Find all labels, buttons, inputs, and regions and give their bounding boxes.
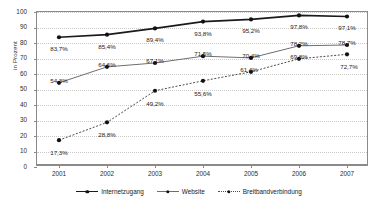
data-point <box>249 17 253 21</box>
data-label: 64,6% <box>98 62 116 68</box>
legend-label: Internetzugang <box>101 188 144 195</box>
x-tick-label: 2006 <box>279 170 319 177</box>
data-label: 95,2% <box>242 28 260 34</box>
data-point <box>201 20 205 24</box>
data-label: 70,4% <box>242 53 260 59</box>
chart-legend: InternetzugangWebsiteBreitbandverbindung <box>0 188 378 195</box>
data-label: 93,8% <box>194 31 212 37</box>
x-tick-label: 2004 <box>183 170 223 177</box>
data-label: 49,2% <box>146 101 164 107</box>
legend-swatch-icon <box>218 188 240 195</box>
data-label: 61,4% <box>240 67 258 73</box>
legend-label: Website <box>182 188 205 195</box>
data-label: 97,1% <box>338 25 356 31</box>
data-point <box>105 120 109 124</box>
y-tick-label: 0 <box>0 164 27 170</box>
y-tick-label: 100 <box>0 9 27 15</box>
y-tick-label: 50 <box>0 86 27 92</box>
y-tick-label: 20 <box>0 133 27 139</box>
data-label: 83,7% <box>50 46 68 52</box>
data-point <box>105 33 109 37</box>
legend-swatch-icon <box>76 188 98 195</box>
y-tick-label: 60 <box>0 71 27 77</box>
data-point <box>345 14 349 18</box>
data-point <box>153 26 157 30</box>
chart-container: in Prozent 0102030405060708090100 200120… <box>0 0 378 209</box>
data-label: 17,3% <box>50 150 68 156</box>
data-point <box>57 138 61 142</box>
y-tick-label: 70 <box>0 55 27 61</box>
data-label: 55,6% <box>194 91 212 97</box>
data-label: 85,4% <box>98 44 116 50</box>
data-label: 28,8% <box>98 132 116 138</box>
legend-label: Breitbandverbindung <box>243 188 302 195</box>
data-point <box>345 52 349 56</box>
data-label: 97,8% <box>290 24 308 30</box>
data-label: 71,5% <box>194 51 212 57</box>
data-label: 89,4% <box>146 37 164 43</box>
data-label: 78,7% <box>338 40 356 46</box>
legend-item-2[interactable]: Breitbandverbindung <box>218 188 302 195</box>
y-tick-label: 40 <box>0 102 27 108</box>
data-point <box>57 35 61 39</box>
data-point <box>201 79 205 83</box>
plot-area: 0102030405060708090100 20012002200320042… <box>36 11 368 166</box>
data-point <box>297 13 301 17</box>
data-label: 78,2% <box>290 41 308 47</box>
x-tick-label: 2003 <box>135 170 175 177</box>
x-tick-label: 2007 <box>327 170 367 177</box>
legend-item-0[interactable]: Internetzugang <box>76 188 144 195</box>
x-tick-label: 2002 <box>87 170 127 177</box>
data-label: 72,7% <box>340 64 358 70</box>
legend-swatch-icon <box>157 188 179 195</box>
data-label: 67,1% <box>146 58 164 64</box>
y-tick-label: 80 <box>0 40 27 46</box>
y-tick-label: 90 <box>0 24 27 30</box>
data-point <box>153 89 157 93</box>
legend-item-1[interactable]: Website <box>157 188 205 195</box>
y-tick-label: 10 <box>0 148 27 154</box>
x-tick-label: 2001 <box>39 170 79 177</box>
y-tick-label: 30 <box>0 117 27 123</box>
data-label: 69,8% <box>290 54 308 60</box>
data-label: 54,3% <box>50 78 68 84</box>
x-tick-label: 2005 <box>231 170 271 177</box>
y-tick-mark <box>34 167 37 168</box>
